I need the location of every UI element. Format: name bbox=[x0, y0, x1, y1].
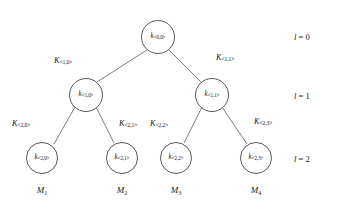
edge-label-subscript: <2,2> bbox=[155, 122, 168, 128]
level-equals-sign: = bbox=[296, 32, 305, 42]
level-equals-sign: = bbox=[296, 154, 305, 164]
tree-edge bbox=[96, 107, 114, 143]
member-base-symbol: M bbox=[117, 185, 125, 195]
tree-node-2-1: k<2,1> bbox=[106, 142, 138, 174]
node-subscript: <0,0> bbox=[154, 35, 166, 41]
tree-node-2-3: k<2,3> bbox=[240, 142, 272, 174]
member-base-symbol: M bbox=[37, 185, 45, 195]
level-indicator-2: l = 2 bbox=[294, 155, 310, 164]
edge-label-subscript: <2,0> bbox=[17, 122, 30, 128]
node-subscript: <2,2> bbox=[172, 156, 184, 162]
leaf-member-label-1: M1 bbox=[37, 186, 48, 196]
edge-key-label-2-1: K<2,1> bbox=[119, 120, 137, 129]
tree-node-label: k<1,1> bbox=[205, 91, 220, 98]
leaf-member-label-3: M3 bbox=[171, 186, 182, 196]
tree-node-label: k<1,0> bbox=[79, 91, 94, 98]
tree-edge bbox=[97, 50, 147, 82]
edge-label-subscript: <1,1> bbox=[221, 56, 234, 62]
tree-edge bbox=[222, 107, 247, 144]
node-subscript: <2,0> bbox=[38, 156, 50, 162]
level-value: 1 bbox=[306, 91, 310, 101]
tree-node-1-0: k<1,0> bbox=[69, 78, 103, 112]
tree-node-label: k<2,2> bbox=[169, 154, 184, 161]
node-subscript: <1,1> bbox=[208, 93, 220, 99]
member-base-symbol: M bbox=[251, 185, 259, 195]
tree-node-label: k<2,3> bbox=[249, 154, 264, 161]
tree-node-2-2: k<2,2> bbox=[160, 142, 192, 174]
member-subscript: 3 bbox=[178, 189, 181, 196]
tree-node-2-0: k<2,0> bbox=[26, 142, 58, 174]
tree-edge bbox=[54, 107, 75, 144]
level-equals-sign: = bbox=[296, 91, 305, 101]
leaf-member-label-2: M2 bbox=[117, 186, 128, 196]
edge-key-label-2-0: K<2,0> bbox=[12, 120, 30, 129]
edge-label-subscript: <1,0> bbox=[59, 59, 72, 65]
tree-edge bbox=[184, 107, 202, 143]
member-base-symbol: M bbox=[171, 185, 179, 195]
edge-label-subscript: <2,3> bbox=[259, 120, 272, 126]
tree-node-label: k<0,0> bbox=[151, 33, 166, 40]
level-value: 2 bbox=[306, 154, 310, 164]
level-indicator-1: l = 1 bbox=[294, 92, 310, 101]
edge-label-subscript: <2,1> bbox=[124, 122, 137, 128]
node-subscript: <1,0> bbox=[82, 93, 94, 99]
level-indicator-0: l = 0 bbox=[294, 33, 310, 42]
member-subscript: 4 bbox=[258, 189, 261, 196]
edge-key-label-1-1: K<1,1> bbox=[216, 54, 234, 63]
tree-node-0-0: k<0,0> bbox=[141, 20, 175, 54]
member-subscript: 2 bbox=[124, 189, 127, 196]
member-subscript: 1 bbox=[44, 189, 47, 196]
node-subscript: <2,3> bbox=[252, 156, 264, 162]
edge-key-label-1-0: K<1,0> bbox=[54, 57, 72, 66]
level-value: 0 bbox=[306, 32, 310, 42]
key-tree-figure: k<0,0>k<1,0>k<1,1>k<2,0>k<2,1>k<2,2>k<2,… bbox=[0, 0, 339, 209]
edge-key-label-2-2: K<2,2> bbox=[150, 120, 168, 129]
tree-edge bbox=[169, 50, 201, 82]
tree-node-1-1: k<1,1> bbox=[195, 78, 229, 112]
tree-node-label: k<2,1> bbox=[115, 154, 130, 161]
edge-key-label-2-3: K<2,3> bbox=[254, 118, 272, 127]
leaf-member-label-4: M4 bbox=[251, 186, 262, 196]
tree-node-label: k<2,0> bbox=[35, 154, 50, 161]
node-subscript: <2,1> bbox=[118, 156, 130, 162]
